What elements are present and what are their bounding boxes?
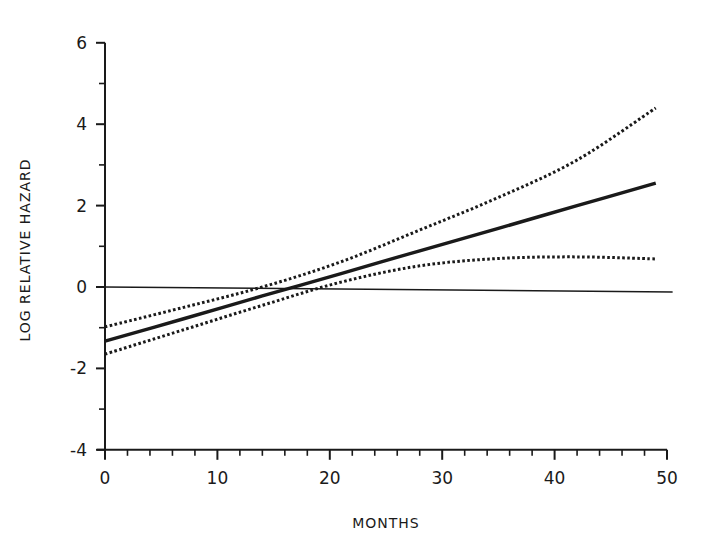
y-tick-label: -4 [70, 440, 87, 460]
y-tick-label: 6 [76, 33, 87, 53]
x-tick-label: 50 [656, 468, 678, 488]
x-tick-label: 0 [100, 468, 111, 488]
chart-canvas: -4-2024601020304050 MONTHS LOG RELATIVE … [0, 0, 701, 552]
zero-reference-line [105, 287, 673, 292]
y-axis-title: LOG RELATIVE HAZARD [17, 158, 33, 341]
x-tick-label: 10 [207, 468, 229, 488]
x-axis-title: MONTHS [352, 515, 420, 531]
x-tick-label: 20 [319, 468, 341, 488]
y-tick-label: -2 [70, 358, 87, 378]
y-tick-label: 2 [76, 196, 87, 216]
series-layer [105, 108, 656, 354]
axes [97, 43, 667, 452]
y-tick-label: 4 [76, 114, 87, 134]
y-tick-label: 0 [76, 277, 87, 297]
estimate-curve [105, 183, 656, 341]
ticks: -4-2024601020304050 [70, 33, 678, 488]
x-tick-label: 30 [431, 468, 453, 488]
upper-ci-curve [105, 108, 656, 327]
x-tick-label: 40 [544, 468, 566, 488]
zero-line [105, 287, 673, 292]
